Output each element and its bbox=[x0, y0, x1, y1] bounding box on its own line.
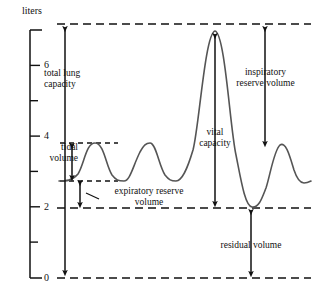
residual-volume-label: residual volume bbox=[192, 240, 310, 251]
tidal-volume-label: tidal volume bbox=[18, 142, 78, 163]
y-axis-units-label: liters bbox=[22, 6, 42, 16]
y-tick-label-0: 0 bbox=[44, 273, 49, 283]
vital-capacity-label: vital capacity bbox=[190, 127, 240, 148]
y-tick-label-4: 4 bbox=[44, 131, 49, 141]
expiratory-reserve-volume-label: expiratory reserve volume bbox=[94, 186, 204, 207]
lung-volumes-diagram: liters 6 4 2 0 total lung capacity tidal… bbox=[0, 0, 317, 302]
total-lung-capacity-label: total lung capacity bbox=[44, 68, 108, 89]
inspiratory-reserve-volume-label: inspiratory reserve volume bbox=[218, 67, 313, 88]
y-tick-label-2: 2 bbox=[44, 202, 49, 212]
